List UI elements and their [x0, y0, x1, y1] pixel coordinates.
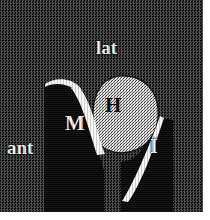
structure-label-h: H: [105, 95, 121, 116]
orientation-label-lateral: lat: [96, 38, 117, 57]
anatomy-overlay: [0, 0, 203, 212]
scan-image-canvas: lat ant M H I: [0, 0, 203, 212]
figure-root: lat ant M H I: [0, 0, 210, 220]
orientation-label-anterior: ant: [7, 138, 33, 157]
structure-label-m: M: [65, 113, 85, 134]
structure-label-i: I: [150, 136, 158, 156]
region-stippled-ellipse: [93, 76, 158, 153]
